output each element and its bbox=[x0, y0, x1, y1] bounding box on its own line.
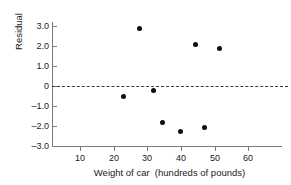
x-tick-mark bbox=[215, 147, 216, 151]
x-tick-mark bbox=[147, 147, 148, 151]
x-tick-label: 30 bbox=[135, 154, 159, 163]
zero-residual-line bbox=[52, 86, 288, 87]
x-tick-mark bbox=[114, 147, 115, 151]
data-point bbox=[137, 26, 142, 31]
y-tick-mark bbox=[53, 46, 57, 47]
y-tick-mark bbox=[53, 26, 57, 27]
y-tick-label: –2.0 bbox=[16, 122, 49, 131]
residual-plot-figure: Residual 3.0 2.0 1.0 0 –1.0 –2.0 –3.0 10… bbox=[0, 0, 291, 185]
x-tick-mark bbox=[248, 147, 249, 151]
data-point bbox=[178, 129, 183, 134]
data-point bbox=[217, 46, 222, 51]
x-tick-label: 40 bbox=[169, 154, 193, 163]
y-tick-mark bbox=[53, 106, 57, 107]
x-axis-title: Weight of car (hundreds of pounds) bbox=[52, 167, 287, 178]
data-point bbox=[160, 120, 165, 125]
data-point bbox=[121, 94, 126, 99]
data-point bbox=[193, 42, 198, 47]
y-tick-label: 2.0 bbox=[16, 42, 49, 51]
y-tick-label: 0 bbox=[16, 82, 49, 91]
y-tick-mark bbox=[53, 66, 57, 67]
data-point bbox=[151, 88, 156, 93]
y-tick-label: –3.0 bbox=[16, 142, 49, 151]
data-point bbox=[202, 125, 207, 130]
x-tick-label: 10 bbox=[68, 154, 92, 163]
y-axis-spine bbox=[52, 22, 53, 147]
x-tick-mark bbox=[80, 147, 81, 151]
y-tick-label: 1.0 bbox=[16, 62, 49, 71]
y-tick-mark bbox=[53, 146, 57, 147]
x-tick-mark bbox=[181, 147, 182, 151]
y-tick-mark bbox=[53, 126, 57, 127]
x-tick-label: 20 bbox=[102, 154, 126, 163]
x-tick-label: 50 bbox=[203, 154, 227, 163]
y-tick-label: 3.0 bbox=[16, 22, 49, 31]
x-tick-label: 60 bbox=[236, 154, 260, 163]
y-tick-label: –1.0 bbox=[16, 102, 49, 111]
y-axis-title: Residual bbox=[13, 2, 24, 62]
